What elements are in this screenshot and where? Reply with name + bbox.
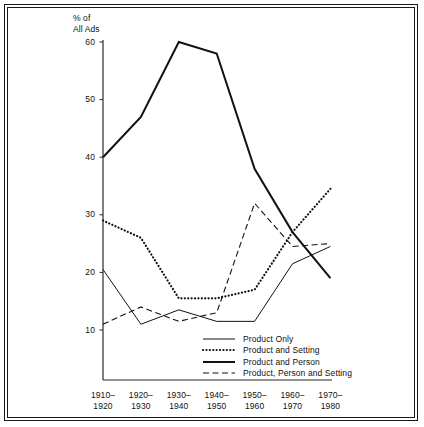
legend-item: Product and Setting — [202, 345, 372, 357]
y-tick-label: 30 — [73, 209, 95, 219]
y-tick-label: 40 — [73, 152, 95, 162]
legend-label: Product and Setting — [243, 345, 320, 355]
legend-label: Product Only — [243, 334, 293, 344]
x-tick-label-line1: 1970– — [308, 390, 352, 401]
y-tick-label: 60 — [73, 37, 95, 47]
legend-swatch — [202, 334, 236, 344]
legend-item: Product, Person and Setting — [202, 368, 372, 380]
x-tick-label: 1970–1980 — [308, 390, 352, 411]
legend-swatch — [202, 368, 236, 378]
legend-label: Product and Person — [243, 357, 320, 367]
legend-swatch — [202, 357, 236, 367]
x-tick-label-line2: 1980 — [308, 401, 352, 412]
series-line — [103, 203, 330, 324]
series-line — [103, 189, 330, 298]
legend-label: Product, Person and Setting — [243, 368, 352, 378]
legend-item: Product Only — [202, 333, 372, 345]
legend-item: Product and Person — [202, 356, 372, 368]
series-line — [103, 246, 330, 324]
y-tick-label: 20 — [73, 267, 95, 277]
series-line — [103, 42, 330, 278]
y-tick-label: 50 — [73, 94, 95, 104]
chart-legend: Product OnlyProduct and SettingProduct a… — [202, 333, 372, 379]
line-chart: % of All Ads 102030405060 1910–19201920–… — [0, 0, 424, 427]
screenshot-root: % of All Ads 102030405060 1910–19201920–… — [0, 0, 424, 427]
y-tick-label: 10 — [73, 325, 95, 335]
series-layer — [103, 42, 330, 324]
legend-swatch — [202, 345, 236, 355]
